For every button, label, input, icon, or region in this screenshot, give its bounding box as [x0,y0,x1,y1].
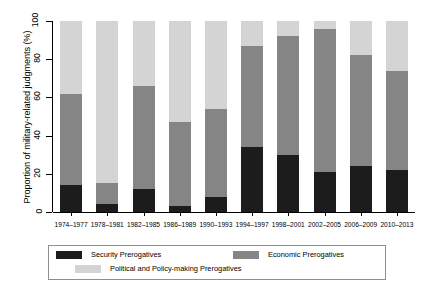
bar-segment-security [60,185,82,212]
bar-segment-political [60,21,82,94]
bar-segment-political [133,21,155,86]
bar-1994-1997 [241,21,263,212]
bar-2002-2005 [314,21,336,212]
x-tick-label: 2010–2013 [369,221,425,228]
bar-segment-political [169,21,191,122]
y-tick-mark [46,136,52,137]
plot-area [53,21,415,212]
bar-segment-economic [96,183,118,204]
legend-item-security: Security Prerogatives [56,250,161,259]
bar-segment-political [350,21,372,55]
bar-segment-security [96,204,118,212]
legend-swatch-economic [233,251,259,259]
bar-segment-political [96,21,118,183]
y-tick-label: 100 [0,15,42,25]
x-tick-mark [180,212,181,216]
x-tick-mark [361,212,362,216]
x-tick-mark [71,212,72,216]
bar-1982-1985 [133,21,155,212]
y-tick-label: 60 [0,91,42,101]
y-tick-mark [46,21,52,22]
bar-segment-political [277,21,299,36]
bar-segment-political [241,21,263,46]
bar-segment-security [241,147,263,212]
x-tick-mark [288,212,289,216]
y-tick-label: 40 [0,130,42,140]
bar-segment-security [205,197,227,212]
bar-segment-security [277,155,299,212]
legend-item-political: Political and Policy-making Prerogatives [75,264,241,273]
bar-segment-economic [386,71,408,170]
y-tick-label: 20 [0,168,42,178]
bar-1974-1977 [60,21,82,212]
y-tick-mark [46,212,52,213]
x-tick-mark [325,212,326,216]
bar-segment-economic [133,86,155,189]
bar-segment-economic [60,94,82,186]
legend-label-economic: Economic Prerogatives [268,250,344,259]
bar-segment-political [205,21,227,109]
legend-item-economic: Economic Prerogatives [233,250,344,259]
bar-1986-1989 [169,21,191,212]
bar-segment-economic [277,36,299,154]
y-axis-title: Proportion of military-related judgments… [22,12,32,222]
legend-swatch-security [56,251,82,259]
x-tick-mark [252,212,253,216]
legend-label-political: Political and Policy-making Prerogatives [110,264,241,273]
legend-swatch-political [75,265,101,273]
chart-legend: Security Prerogatives Economic Prerogati… [48,245,386,280]
x-tick-mark [397,212,398,216]
y-tick-mark [46,97,52,98]
x-tick-mark [216,212,217,216]
bar-1978-1981 [96,21,118,212]
bar-2010-2013 [386,21,408,212]
bar-segment-economic [205,109,227,197]
y-tick-mark [46,174,52,175]
bar-segment-economic [169,122,191,206]
bar-segment-economic [350,55,372,166]
legend-label-security: Security Prerogatives [91,250,161,259]
bar-segment-security [386,170,408,212]
y-tick-label: 80 [0,53,42,63]
bar-1998-2001 [277,21,299,212]
bar-segment-security [314,172,336,212]
chart-figure: Proportion of military-related judgments… [0,0,429,295]
bar-segment-political [386,21,408,71]
y-tick-mark [46,59,52,60]
bar-segment-security [133,189,155,212]
bar-1990-1993 [205,21,227,212]
y-tick-label: 0 [0,206,42,216]
bar-segment-security [350,166,372,212]
bar-2006-2009 [350,21,372,212]
bar-segment-economic [314,29,336,172]
x-tick-mark [144,212,145,216]
x-tick-mark [107,212,108,216]
bar-segment-economic [241,46,263,147]
bar-segment-political [314,21,336,29]
